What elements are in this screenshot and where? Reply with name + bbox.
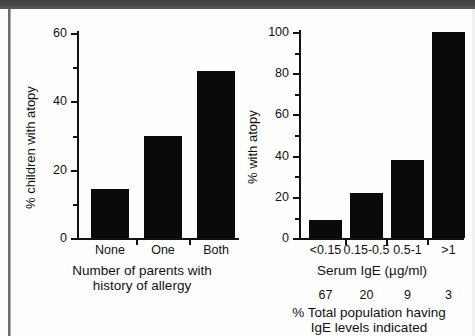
right-ytick-minor-50 bbox=[295, 135, 299, 137]
right-ytick-minor-10 bbox=[295, 218, 299, 220]
right-y-axis-title: % with atopy bbox=[245, 110, 260, 184]
bar-igE-gt-1 bbox=[432, 32, 465, 238]
left-ytick-minor-50 bbox=[73, 67, 77, 69]
annot-caption: % Total population having IgE levels ind… bbox=[269, 305, 469, 335]
right-ytick-20 bbox=[293, 197, 299, 199]
right-ytick-100 bbox=[293, 32, 299, 34]
left-y-axis bbox=[77, 31, 79, 240]
right-ytick-label-100: 100 bbox=[245, 26, 289, 39]
right-ytick-80 bbox=[293, 73, 299, 75]
bar-igE-0-15-0-5 bbox=[350, 193, 383, 238]
right-ytick-minor-90 bbox=[295, 53, 299, 55]
bar-igE-0-5-1 bbox=[391, 160, 424, 238]
right-ytick-60 bbox=[293, 114, 299, 116]
left-xtick-label-one: One bbox=[138, 244, 188, 257]
right-ytick-40 bbox=[293, 156, 299, 158]
left-x-axis bbox=[77, 238, 239, 240]
right-x-axis-title: Serum IgE (µg/ml) bbox=[279, 263, 465, 278]
right-ytick-label-20: 20 bbox=[245, 191, 289, 204]
left-xtick-label-none: None bbox=[85, 244, 135, 257]
right-ytick-0 bbox=[293, 238, 299, 240]
right-ytick-label-0: 0 bbox=[245, 232, 289, 245]
bar-both bbox=[197, 71, 235, 238]
left-xtick-label-both: Both bbox=[191, 244, 241, 257]
chart-panel-left: 60 40 20 0 % children with atopy None On… bbox=[11, 9, 239, 336]
left-ytick-60 bbox=[71, 33, 77, 35]
left-ytick-minor-10 bbox=[73, 204, 77, 206]
left-ytick-label-60: 60 bbox=[25, 27, 67, 40]
bar-igE-lt-0-15 bbox=[309, 220, 342, 239]
chart-panel-right: 100 80 60 40 20 0 % with atopy <0.15 0.1… bbox=[239, 9, 475, 336]
right-ytick-minor-70 bbox=[295, 94, 299, 96]
left-ytick-40 bbox=[71, 101, 77, 103]
left-x-axis-title: Number of parents with history of allerg… bbox=[45, 263, 239, 293]
left-ytick-minor-30 bbox=[73, 136, 77, 138]
left-y-axis-title: % children with atopy bbox=[23, 86, 38, 209]
bar-none bbox=[91, 189, 129, 239]
left-ytick-0 bbox=[71, 238, 77, 240]
bar-one bbox=[144, 136, 182, 239]
scan-top-band bbox=[0, 0, 475, 9]
right-y-axis bbox=[299, 30, 301, 240]
figure-page: 60 40 20 0 % children with atopy None On… bbox=[0, 0, 475, 336]
right-x-axis bbox=[299, 238, 464, 240]
right-ytick-label-80: 80 bbox=[245, 67, 289, 80]
right-xtick-label-4: >1 bbox=[424, 244, 473, 257]
annot-value-4: 3 bbox=[424, 288, 473, 302]
right-ytick-minor-30 bbox=[295, 176, 299, 178]
left-ytick-label-0: 0 bbox=[25, 232, 67, 245]
left-ytick-20 bbox=[71, 170, 77, 172]
